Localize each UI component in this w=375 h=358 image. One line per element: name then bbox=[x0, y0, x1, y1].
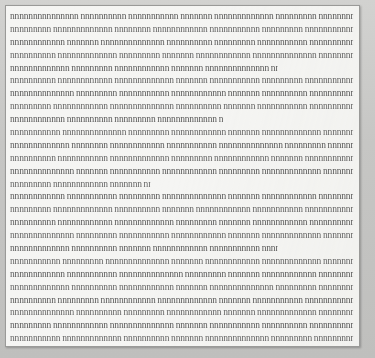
text-line: nnnnnnnnnnnnnn nnnnnnnnn nnnnnnnnnnn nnn… bbox=[10, 229, 353, 242]
text-line-glyphs: nnnnnnnnnnnnn nnnnnnnn nnnnnnnnnnnn nnnn… bbox=[10, 139, 353, 152]
text-line-glyphs: nnnnnnnnnnnnn nnnnnnnnnn nnnnnnn nnnnnnn… bbox=[10, 242, 278, 255]
text-line: nnnnnnnnnn nnnnnnnnnnn nnnnnnnnnnnnn nnn… bbox=[10, 152, 353, 165]
text-line-glyphs: nnnnnnnnn nnnnnnnnnnnn nnnnnnnnnnnnnn nn… bbox=[10, 100, 353, 113]
document-text-block: nnnnnnnnnnnnnnn nnnnnnnnnn nnnnnnnnnnn n… bbox=[10, 10, 355, 344]
text-line-glyphs: nnnnnnnnnnnnnn nnnnnnnnnn nnnnnnnnn nnnn… bbox=[10, 306, 353, 319]
text-line: nnnnnnnnnnnn nnnnnnnnnn nnnnnnnnn nnnnnn… bbox=[10, 113, 353, 126]
text-line: nnnnnnnnnnn nnnnnnnnnnnnnn nnnnnnnnn nnn… bbox=[10, 126, 353, 139]
text-line: nnnnnnnnnn nnnnnnnnnnnn nnnnnnnnnnnnn nn… bbox=[10, 74, 353, 87]
text-line-glyphs: nnnnnnnnnnnn nnnnnnnnnnn nnnnnnnnn nnnnn… bbox=[10, 190, 353, 203]
text-line: nnnnnnnnnnnn nnnnnnn nnnnnnnnnnnnnn nnnn… bbox=[10, 36, 353, 49]
text-line: nnnnnnnnnnnnnn nnnnnnnnn nnnnnnnnnnn nnn… bbox=[10, 87, 353, 100]
text-line-glyphs: nnnnnnnnnn nnnnnnnnn nnnnnnnnnnnn nnnnnn… bbox=[10, 294, 353, 307]
text-line: nnnnnnnnnnnnn nnnnnnnnnn nnnnnnn nnnnnnn… bbox=[10, 242, 353, 255]
text-line-glyphs: nnnnnnnnn nnnnnnnnnnnn nnnnnnnnnnnnnn nn… bbox=[10, 319, 353, 332]
text-line: nnnnnnnnn nnnnnnnnnnnn nnnnnnnnnnnnnn nn… bbox=[10, 100, 353, 113]
text-line: nnnnnnnnn nnnnnnnnnnnn nnnnnnn nnnnnnnnn… bbox=[10, 178, 353, 191]
text-line: nnnnnnnnnnnnnn nnnnnnnnnn nnnnnnnnn nnnn… bbox=[10, 306, 353, 319]
text-line: nnnnnnnnnnnn nnnnnnnnnnn nnnnnnnnn nnnnn… bbox=[10, 190, 353, 203]
text-line: nnnnnnnnnnn nnnnnnnnnnnnn nnnnnnnnnn nnn… bbox=[10, 332, 353, 344]
text-line: nnnnnnnnn nnnnnnnnnnnnn nnnnnnnnnn nnnnn… bbox=[10, 203, 353, 216]
text-line: nnnnnnnnnnnnn nnnnnnnn nnnnnnnnnnnn nnnn… bbox=[10, 139, 353, 152]
text-line: nnnnnnnnnn nnnnnnnnnnnn nnnnnnnnnnnnn nn… bbox=[10, 216, 353, 229]
text-line-glyphs: nnnnnnnnnn nnnnnnnnnnn nnnnnnnnnnnnn nnn… bbox=[10, 152, 353, 165]
text-line-glyphs: nnnnnnnnnnn nnnnnnnnnnnnnn nnnnnnnnn nnn… bbox=[10, 126, 353, 139]
text-line-glyphs: nnnnnnnnn nnnnnnnnnnnn nnnnnnn nnnnnnnnn… bbox=[10, 178, 151, 191]
text-line-glyphs: nnnnnnnnnnnnnn nnnnnnnnn nnnnnnnnnnn nnn… bbox=[10, 229, 353, 242]
text-line-glyphs: nnnnnnnnnn nnnnnnnnnnnn nnnnnnnnnnnnn nn… bbox=[10, 216, 353, 229]
text-line: nnnnnnnnnnnnnn nnnnnnn nnnnnnnnnnn nnnnn… bbox=[10, 165, 353, 178]
text-line: nnnnnnnnnnnnn nnnnnnnnnn nnnnnnnnnnnn nn… bbox=[10, 281, 353, 294]
document-page-screenshot: nnnnnnnnnnnnnnn nnnnnnnnnn nnnnnnnnnnn n… bbox=[0, 0, 375, 358]
text-line-glyphs: nnnnnnnnnnn nnnnnnnnn nnnnnnnnnnnnnn nnn… bbox=[10, 255, 353, 268]
text-line-glyphs: nnnnnnnnnnnnn nnnnnnnnn nnnnnnnnnnnn nnn… bbox=[10, 62, 278, 75]
text-line: nnnnnnnnnn nnnnnnnnnnnnn nnnnnnnnn nnnnn… bbox=[10, 49, 353, 62]
text-line-glyphs: nnnnnnnnnnnnnn nnnnnnn nnnnnnnnnnn nnnnn… bbox=[10, 165, 353, 178]
document-page-sheet[interactable]: nnnnnnnnnnnnnnn nnnnnnnnnn nnnnnnnnnnn n… bbox=[5, 5, 360, 347]
text-line: nnnnnnnnnnnnnnn nnnnnnnnnn nnnnnnnnnnn n… bbox=[10, 10, 353, 23]
text-line-glyphs: nnnnnnnnn nnnnnnnnnnnnn nnnnnnnn nnnnnnn… bbox=[10, 23, 353, 36]
text-line-glyphs: nnnnnnnnnnnnn nnnnnnnnnn nnnnnnnnnnnn nn… bbox=[10, 281, 353, 294]
text-line: nnnnnnnnn nnnnnnnnnnnnn nnnnnnnn nnnnnnn… bbox=[10, 23, 353, 36]
text-line: nnnnnnnnnnn nnnnnnnnn nnnnnnnnnnnnnn nnn… bbox=[10, 255, 353, 268]
text-line-glyphs: nnnnnnnnnnnnnn nnnnnnnnn nnnnnnnnnnn nnn… bbox=[10, 87, 353, 100]
text-line-glyphs: nnnnnnnnnnn nnnnnnnnnnnnn nnnnnnnnnn nnn… bbox=[10, 332, 353, 344]
text-line: nnnnnnnnnnnnn nnnnnnnnn nnnnnnnnnnnn nnn… bbox=[10, 62, 353, 75]
text-line: nnnnnnnnnn nnnnnnnnn nnnnnnnnnnnn nnnnnn… bbox=[10, 294, 353, 307]
text-line-glyphs: nnnnnnnnnn nnnnnnnnnnnnn nnnnnnnnn nnnnn… bbox=[10, 49, 353, 62]
text-line: nnnnnnnnnnnn nnnnnnnnnnn nnnnnnnnnnnnnn … bbox=[10, 268, 353, 281]
text-line-glyphs: nnnnnnnnnn nnnnnnnnnnnn nnnnnnnnnnnnn nn… bbox=[10, 74, 353, 87]
text-line-glyphs: nnnnnnnnnnnn nnnnnnn nnnnnnnnnnnnnn nnnn… bbox=[10, 36, 353, 49]
text-line-glyphs: nnnnnnnnnnnn nnnnnnnnnnn nnnnnnnnnnnnnn … bbox=[10, 268, 353, 281]
text-line: nnnnnnnnn nnnnnnnnnnnn nnnnnnnnnnnnnn nn… bbox=[10, 319, 353, 332]
text-line-glyphs: nnnnnnnnnnnnnnn nnnnnnnnnn nnnnnnnnnnn n… bbox=[10, 10, 353, 23]
text-line-glyphs: nnnnnnnnn nnnnnnnnnnnnn nnnnnnnnnn nnnnn… bbox=[10, 203, 353, 216]
text-line-glyphs: nnnnnnnnnnnn nnnnnnnnnn nnnnnnnnn nnnnnn… bbox=[10, 113, 223, 126]
